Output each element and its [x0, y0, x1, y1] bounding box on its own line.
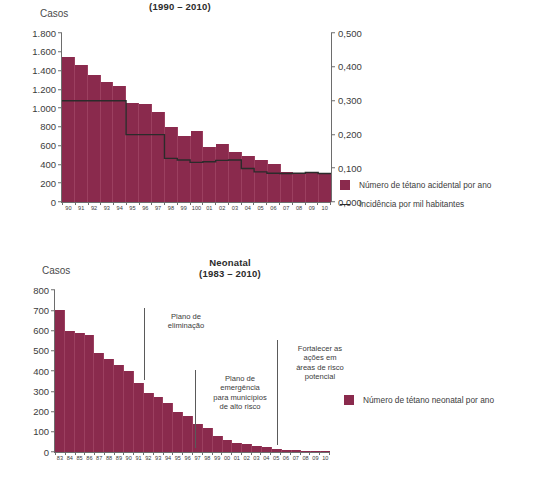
bar-02	[216, 144, 229, 202]
y-tick-label: 1.800	[32, 28, 62, 38]
bar-97	[152, 112, 165, 202]
bar-93	[101, 82, 114, 202]
y-tick-label: 100	[33, 427, 55, 437]
x-tick-label: 04	[261, 456, 271, 462]
bar-100	[191, 131, 204, 202]
annotation-fortalecer-acoes: Fortalecer as ações em áreas de risco po…	[280, 344, 360, 382]
x-tick-label: 87	[94, 456, 104, 462]
legend-label-neonatal: Número de tétano neonatal por ano	[363, 395, 494, 405]
y-tick-label: 200	[40, 178, 62, 188]
y-tick-label: 700	[33, 306, 55, 316]
x-tick-label: 99	[177, 206, 190, 212]
bar-98	[203, 428, 213, 452]
x-tick-label: 95	[173, 456, 183, 462]
x-tick-label: 08	[293, 206, 306, 212]
x-tick-label: 07	[291, 456, 301, 462]
bar-95	[173, 412, 183, 453]
x-tick-label: 10	[318, 206, 331, 212]
x-tick-label: 09	[311, 456, 321, 462]
x-tick-label: 03	[229, 206, 242, 212]
x-tick-label: 08	[301, 456, 311, 462]
x-tick-label: 94	[163, 456, 173, 462]
bar-95	[126, 103, 139, 202]
bar-94	[163, 403, 173, 452]
bottom-chart-legend: Número de tétano neonatal por ano	[344, 395, 494, 414]
x-tick-label: 96	[183, 456, 193, 462]
annotation-plano-emergencia: Plano de emergência para municípios de a…	[198, 374, 282, 412]
bar-04	[242, 156, 255, 202]
x-tick-label: 06	[281, 456, 291, 462]
y-tick-label: 800	[40, 122, 62, 132]
x-tick-label: 06	[267, 206, 280, 212]
bottom-chart-y-axis-label: Casos	[42, 265, 70, 276]
x-tick-label: 05	[254, 206, 267, 212]
x-tick-label: 92	[143, 456, 153, 462]
line-swatch-icon	[340, 204, 350, 205]
x-tick-label: 88	[104, 456, 114, 462]
bar-98	[165, 127, 178, 202]
x-tick-label: 90	[62, 206, 75, 212]
x-tick-label: 99	[212, 456, 222, 462]
x-tick-label: 91	[134, 456, 144, 462]
y-tick-label: 800	[33, 285, 55, 295]
annotation-line-1	[144, 308, 145, 380]
x-tick-label: 97	[152, 206, 165, 212]
x-tick-label: 97	[193, 456, 203, 462]
y-tick-label-right: 0,300	[331, 96, 362, 106]
bar-92	[144, 393, 154, 452]
bar-09	[306, 173, 319, 202]
x-tick-label: 92	[88, 206, 101, 212]
top-chart-x-labels: 9091929394959697989910001020304050607080…	[62, 206, 331, 212]
x-tick-label: 94	[113, 206, 126, 212]
annotation-plano-eliminacao: Plano de eliminação	[148, 312, 224, 331]
bar-08	[293, 173, 306, 202]
bottom-chart-x-labels: 8384858687888990919293949596979899000102…	[55, 456, 330, 462]
bar-89	[114, 365, 124, 452]
y-tick-label: 300	[33, 387, 55, 397]
bottom-chart-title-line1: Neonatal	[150, 257, 310, 268]
annotation-line-2	[195, 370, 196, 448]
bar-swatch-icon	[344, 395, 354, 405]
x-tick-label: 01	[203, 206, 216, 212]
x-tick-label: 93	[153, 456, 163, 462]
bar-10	[319, 173, 331, 202]
legend-label-accidental: Número de tétano acidental por ano	[359, 180, 491, 190]
y-tick-label: 400	[40, 160, 62, 170]
top-chart-bars	[62, 33, 331, 202]
bar-87	[94, 353, 104, 452]
y-tick-label: 1.400	[32, 66, 62, 76]
y-tick-label: 0	[51, 197, 62, 207]
x-tick-label: 84	[65, 456, 75, 462]
x-tick-label: 85	[75, 456, 85, 462]
bar-93	[154, 397, 164, 452]
legend-item-neonatal-bars: Número de tétano neonatal por ano	[344, 395, 494, 405]
bar-06	[268, 164, 281, 202]
bar-83	[55, 310, 65, 452]
x-tick-label: 05	[271, 456, 281, 462]
neonatal-tetanus-chart: Neonatal (1983 – 2010) Casos 01002003004…	[0, 240, 536, 477]
bar-99	[178, 136, 191, 202]
bar-86	[85, 335, 95, 452]
legend-label-incidence: Incidência por mil habitantes	[359, 199, 464, 209]
bar-01	[232, 443, 242, 452]
y-tick-label: 1.200	[32, 85, 62, 95]
bar-90	[62, 57, 75, 202]
y-tick-label: 0	[44, 447, 55, 457]
bar-02	[242, 444, 252, 452]
bar-96	[183, 416, 193, 452]
bar-91	[75, 65, 88, 202]
y-tick-label-right: 0,500	[331, 28, 362, 38]
x-tick-label: 89	[114, 456, 124, 462]
bar-91	[134, 383, 144, 452]
x-tick-label: 10	[320, 456, 330, 462]
bar-00	[223, 440, 233, 452]
x-tick-label: 02	[216, 206, 229, 212]
x-tick-label: 02	[242, 456, 252, 462]
legend-item-line: Incidência por mil habitantes	[340, 199, 491, 209]
x-tick-label: 98	[165, 206, 178, 212]
bottom-chart-title-line2: (1983 – 2010)	[150, 268, 310, 279]
x-tick-label: 98	[202, 456, 212, 462]
x-tick-label: 93	[100, 206, 113, 212]
x-tick-label: 91	[75, 206, 88, 212]
legend-item-bars: Número de tétano acidental por ano	[340, 180, 491, 190]
